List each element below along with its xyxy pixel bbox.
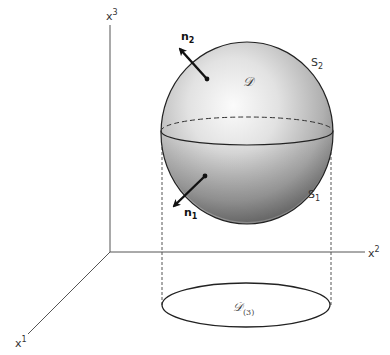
x1-axis-label: x1 xyxy=(15,335,27,350)
surface-s2-label: S2 xyxy=(311,56,323,71)
normal-n2-label: n2 xyxy=(181,30,194,45)
diagram-svg: x3 x2 x1 n2 n1 𝒟 S2 S1 𝒟(3) xyxy=(0,0,390,355)
x3-axis-label: x3 xyxy=(106,8,118,23)
projected-region-label: 𝒟(3) xyxy=(233,300,254,317)
surface-s1-label: S1 xyxy=(308,188,320,203)
x2-axis-label: x2 xyxy=(368,245,380,260)
x1-axis xyxy=(28,252,110,334)
projected-region-ellipse xyxy=(162,283,330,327)
diagram-canvas: x3 x2 x1 n2 n1 𝒟 S2 S1 𝒟(3) xyxy=(0,0,390,355)
normal-n1-label: n1 xyxy=(184,206,198,221)
